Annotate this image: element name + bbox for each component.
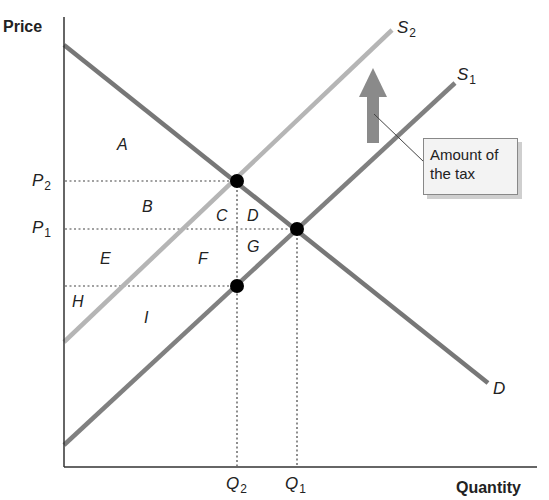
equilibrium-dot-p2-q2 [230, 174, 244, 188]
x-axis-title: Quantity [456, 480, 521, 496]
guide-lines [65, 181, 297, 466]
area-d: D [247, 208, 259, 224]
tick-p2: P2 [32, 172, 51, 192]
area-i: I [144, 310, 148, 326]
area-b: B [142, 199, 153, 215]
tax-arrow-icon [359, 68, 387, 143]
y-axis-title: Price [3, 19, 42, 35]
equilibrium-dot-p1-q1 [290, 222, 304, 236]
area-f: F [198, 251, 208, 267]
supplier-price-dot-q2 [230, 279, 244, 293]
tax-annotation-line2: the tax [430, 164, 511, 183]
area-g: G [247, 239, 259, 255]
tick-q2: Q2 [226, 475, 247, 495]
tax-annotation-box: Amount of the tax [423, 138, 518, 195]
label-demand: D [493, 380, 505, 397]
label-s1: S1 [457, 66, 476, 86]
area-h: H [72, 294, 84, 310]
label-s2: S2 [397, 19, 416, 39]
demand-curve [64, 45, 488, 383]
area-a: A [117, 137, 128, 153]
tax-annotation-line1: Amount of [430, 145, 511, 164]
area-e: E [100, 251, 111, 267]
tick-p1: P1 [32, 219, 51, 239]
tick-q1: Q1 [285, 475, 306, 495]
area-c: C [216, 208, 228, 224]
